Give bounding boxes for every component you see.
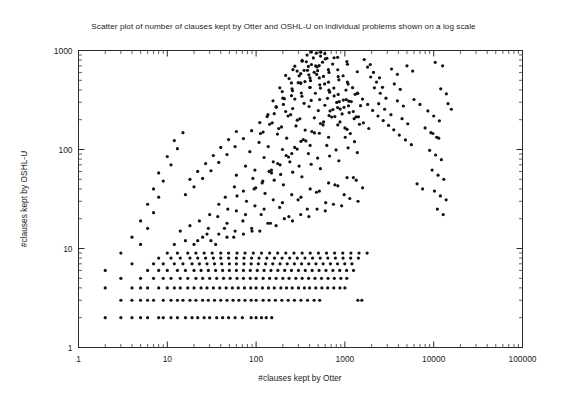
data-point <box>224 196 227 199</box>
data-point <box>217 232 220 235</box>
data-point <box>139 243 142 246</box>
data-point <box>332 56 335 59</box>
data-point <box>259 132 262 135</box>
data-point <box>322 75 325 78</box>
data-point <box>392 128 395 131</box>
data-point <box>300 91 303 94</box>
data-point <box>196 316 199 319</box>
data-point <box>203 251 206 254</box>
data-point <box>169 299 172 302</box>
data-point <box>393 82 396 85</box>
data-point <box>235 194 238 197</box>
data-point <box>318 83 321 86</box>
data-point <box>278 262 281 265</box>
data-point <box>423 126 426 129</box>
data-point <box>242 190 245 193</box>
data-point <box>326 286 329 289</box>
data-point <box>268 277 271 280</box>
data-point <box>300 262 303 265</box>
data-point <box>139 277 142 280</box>
data-point <box>211 251 214 254</box>
data-point <box>445 92 448 95</box>
data-point <box>367 127 370 130</box>
data-point <box>231 286 234 289</box>
data-point <box>271 99 274 102</box>
data-point <box>217 203 220 206</box>
data-point <box>309 144 312 147</box>
data-point <box>278 206 281 209</box>
data-point <box>421 187 424 190</box>
data-point <box>404 138 407 141</box>
data-point <box>286 262 289 265</box>
data-point <box>273 256 276 259</box>
data-point <box>179 277 182 280</box>
data-point <box>188 256 191 259</box>
data-point <box>280 299 283 302</box>
data-point <box>184 193 187 196</box>
data-point <box>208 213 211 216</box>
data-point <box>441 64 444 67</box>
data-point <box>173 286 176 289</box>
data-point <box>343 286 346 289</box>
data-point <box>338 100 341 103</box>
data-point <box>248 150 251 153</box>
data-point <box>341 256 344 259</box>
data-point <box>209 169 212 172</box>
data-point <box>276 251 279 254</box>
data-point <box>119 251 122 254</box>
data-point <box>223 227 226 230</box>
data-point <box>297 269 300 272</box>
data-point <box>313 299 316 302</box>
data-point <box>382 119 385 122</box>
data-point <box>315 73 318 76</box>
data-point <box>296 256 299 259</box>
data-point <box>376 114 379 117</box>
data-point <box>349 256 352 259</box>
data-point <box>253 168 256 171</box>
data-point <box>336 184 339 187</box>
data-point <box>333 115 336 118</box>
data-point <box>235 130 238 133</box>
data-point <box>176 316 179 319</box>
data-point <box>314 286 317 289</box>
data-point <box>250 129 253 132</box>
data-point <box>285 286 288 289</box>
data-point <box>356 92 359 95</box>
data-point <box>308 86 311 89</box>
data-point <box>326 256 329 259</box>
data-point <box>205 286 208 289</box>
data-point <box>176 147 179 150</box>
data-point <box>322 120 325 123</box>
data-point <box>214 269 217 272</box>
data-point <box>162 277 165 280</box>
data-point <box>192 286 195 289</box>
data-point <box>333 251 336 254</box>
data-point <box>290 94 293 97</box>
data-point <box>291 286 294 289</box>
data-point <box>352 110 355 113</box>
data-point <box>296 69 299 72</box>
data-point <box>119 299 122 302</box>
data-point <box>327 81 330 84</box>
data-point <box>225 299 228 302</box>
data-point <box>378 76 381 79</box>
data-point <box>296 119 299 122</box>
data-point <box>309 187 312 190</box>
data-point <box>268 123 271 126</box>
data-point <box>119 316 122 319</box>
data-point <box>398 133 401 136</box>
data-point <box>359 104 362 107</box>
data-point <box>249 269 252 272</box>
data-point <box>130 316 133 319</box>
data-point <box>307 215 310 218</box>
data-point <box>273 112 276 115</box>
x-axis-ticks <box>79 51 523 348</box>
data-point <box>235 174 238 177</box>
data-point <box>184 269 187 272</box>
data-point <box>301 251 304 254</box>
data-point <box>269 269 272 272</box>
data-point <box>405 64 408 67</box>
data-point <box>310 50 313 53</box>
data-point <box>157 256 160 259</box>
data-point <box>317 269 320 272</box>
